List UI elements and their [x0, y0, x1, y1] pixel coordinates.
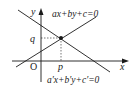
intersection-point — [59, 36, 63, 40]
p-label: p — [57, 61, 63, 72]
y-axis — [39, 8, 44, 82]
line-ax-by-c — [16, 17, 96, 67]
y-axis-label: y — [30, 6, 36, 17]
x-axis-label: x — [119, 61, 125, 72]
coordinate-diagram: y x O q p ax+by+c=0 a′x+b′y+c′=0 — [0, 0, 139, 96]
equation-label-1: ax+by+c=0 — [52, 9, 98, 19]
equation-label-2: a′x+b′y+c′=0 — [47, 75, 100, 85]
q-label: q — [30, 33, 35, 44]
y-axis-arrow-icon — [39, 8, 44, 15]
origin-label: O — [30, 61, 37, 72]
